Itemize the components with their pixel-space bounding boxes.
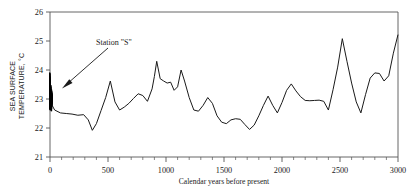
sea-surface-temperature-chart: 212223242526 050010001500200025003000 St… xyxy=(0,0,412,194)
x-tick-label: 1000 xyxy=(158,166,174,175)
y-tick-label: 22 xyxy=(35,124,43,133)
y-axis-title-line-2: TEMPERATURE, °C xyxy=(18,53,25,119)
y-tick-label: 26 xyxy=(35,8,43,17)
station-s-trace xyxy=(50,72,52,111)
y-tick-label: 21 xyxy=(35,153,43,162)
x-axis-major-ticks xyxy=(50,157,398,162)
chart-canvas: 212223242526 050010001500200025003000 St… xyxy=(0,0,412,194)
y-tick-label: 23 xyxy=(35,95,43,104)
plot-frame xyxy=(50,12,398,157)
x-axis-title: Calendar years before present xyxy=(179,177,270,186)
x-tick-label: 500 xyxy=(102,166,114,175)
y-axis-title-line-1: SEA SURFACE xyxy=(9,61,16,111)
x-tick-label: 3000 xyxy=(390,166,406,175)
y-axis-tick-labels: 212223242526 xyxy=(35,8,43,162)
x-tick-label: 2500 xyxy=(332,166,348,175)
y-tick-label: 25 xyxy=(35,37,43,46)
temperature-series-line xyxy=(50,35,398,131)
station-s-annotation-label: Station "S" xyxy=(96,38,132,47)
x-tick-label: 2000 xyxy=(274,166,290,175)
y-axis-title: SEA SURFACE TEMPERATURE, °C xyxy=(9,53,25,119)
station-s-instrumental-bundle xyxy=(50,72,52,111)
x-axis-tick-labels: 050010001500200025003000 xyxy=(48,166,406,175)
x-tick-label: 1500 xyxy=(216,166,232,175)
x-tick-label: 0 xyxy=(48,166,52,175)
station-s-leader-arrow xyxy=(62,48,108,89)
y-tick-label: 24 xyxy=(35,66,43,75)
